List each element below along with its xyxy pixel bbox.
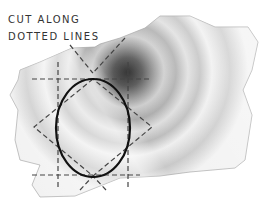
hide-illustration	[0, 0, 267, 207]
